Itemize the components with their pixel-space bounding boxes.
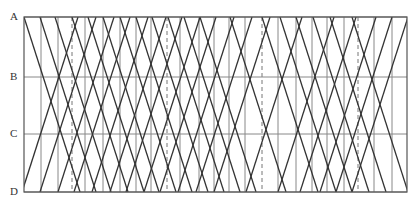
train-path-up — [22, 17, 78, 192]
train-path-up — [160, 17, 216, 192]
station-label-c: C — [10, 128, 17, 139]
train-path-down — [120, 17, 176, 192]
station-label-a: A — [10, 11, 18, 22]
train-graph-canvas — [0, 0, 416, 206]
station-label-b: B — [10, 71, 17, 82]
train-path-down — [136, 17, 192, 192]
train-path-up — [110, 17, 166, 192]
train-path-down — [262, 17, 318, 192]
time-grid-lines — [41, 17, 392, 192]
train-path-up — [178, 17, 234, 192]
train-path-down — [184, 17, 240, 192]
train-path-down — [168, 17, 224, 192]
train-path-up — [58, 17, 114, 192]
station-label-d: D — [10, 186, 18, 197]
train-path-up — [126, 17, 182, 192]
train-path-up — [196, 17, 252, 192]
train-paths — [22, 17, 408, 192]
train-path-up — [246, 17, 302, 192]
train-path-down — [200, 17, 256, 192]
train-path-up — [278, 17, 334, 192]
train-path-up — [144, 17, 200, 192]
